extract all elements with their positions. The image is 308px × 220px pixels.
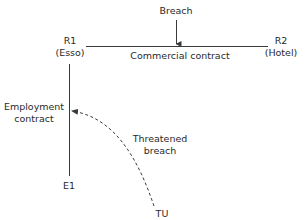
commercial-contract-label: Commercial contract xyxy=(110,50,250,62)
node-r1-name: (Esso) xyxy=(44,47,96,59)
node-e1: E1 xyxy=(55,180,83,192)
node-r1-id: R1 xyxy=(44,35,96,47)
breach-label: Breach xyxy=(150,5,202,17)
node-tu: TU xyxy=(148,208,176,220)
threatened-breach-dashed-arrow xyxy=(72,111,154,206)
node-r2: R2 (Hotel) xyxy=(255,35,307,59)
employment-contract-label: Employment contract xyxy=(2,101,66,125)
node-r2-name: (Hotel) xyxy=(255,47,307,59)
threatened-breach-line2: breach xyxy=(128,145,192,157)
threatened-breach-label: Threatened breach xyxy=(128,133,192,157)
threatened-breach-line1: Threatened xyxy=(128,133,192,145)
diagram-canvas: Breach R1 (Esso) R2 (Hotel) Commercial c… xyxy=(0,0,308,220)
node-r1: R1 (Esso) xyxy=(44,35,96,59)
employment-contract-line2: contract xyxy=(2,113,66,125)
employment-contract-line1: Employment xyxy=(2,101,66,113)
node-r2-id: R2 xyxy=(255,35,307,47)
